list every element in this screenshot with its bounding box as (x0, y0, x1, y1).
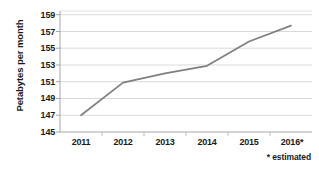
x-tick-label: 2011 (61, 137, 101, 147)
x-tick-label: 2013 (145, 137, 185, 147)
plot-background (60, 11, 312, 132)
y-axis-ticks (56, 15, 60, 132)
x-tick-label: 2016* (271, 137, 313, 147)
line-chart: Petabytes per month 159 157 155 153 151 … (0, 0, 319, 178)
x-tick-label: 2014 (187, 137, 227, 147)
x-axis-ticks (102, 132, 270, 136)
footnote-estimated: * estimated (267, 152, 311, 162)
x-tick-label: 2012 (103, 137, 143, 147)
x-tick-label: 2015 (229, 137, 269, 147)
